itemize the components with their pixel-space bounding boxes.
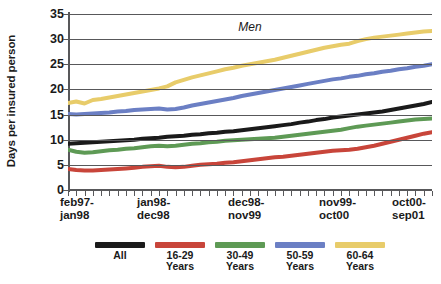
legend-label: 50-59Years: [270, 250, 330, 272]
legend-label: 60-64Years: [330, 250, 390, 272]
y-axis-tick: [63, 39, 69, 40]
x-axis-tick-label: feb97-jan98: [60, 196, 94, 221]
legend-label: All: [90, 250, 150, 261]
x-axis-tick-label: jan98-dec98: [137, 196, 170, 221]
x-tick-label-line2: dec98: [137, 209, 170, 222]
gridline: [68, 140, 432, 141]
y-axis-tick-label: 30: [40, 33, 64, 46]
gridline: [68, 89, 432, 90]
gridline: [68, 14, 432, 15]
x-tick-label-line2: jan98: [60, 209, 94, 222]
y-axis-tick-label: 5: [40, 159, 64, 172]
legend-item[interactable]: 60-64Years: [330, 242, 390, 272]
x-tick-label-line2: sep01: [392, 209, 426, 222]
x-tick-label-line1: feb97-: [60, 196, 94, 209]
legend-label-line2: Years: [150, 261, 210, 272]
series-lines: [68, 14, 432, 190]
y-axis-tick-label: 35: [40, 8, 64, 21]
legend-color-swatch: [95, 242, 145, 248]
legend-item[interactable]: 30-49Years: [210, 242, 270, 272]
legend-item[interactable]: All: [90, 242, 150, 261]
legend-label-line1: All: [90, 250, 150, 261]
legend-color-swatch: [335, 242, 385, 248]
y-axis-tick-label: 0: [40, 184, 64, 197]
legend-label: 16-29Years: [150, 250, 210, 272]
x-axis-tick-label: dec98-nov99: [228, 196, 264, 221]
x-tick-label-line2: oct00: [319, 209, 356, 222]
y-axis-tick-label: 20: [40, 83, 64, 96]
x-axis-tick-labels: feb97-jan98jan98-dec98dec98-nov99nov99-o…: [0, 196, 441, 230]
legend-color-swatch: [215, 242, 265, 248]
y-axis-tick: [63, 115, 69, 116]
plot-area: Men: [68, 14, 432, 190]
x-tick-label-line1: oct00-: [392, 196, 426, 209]
x-axis-tick-label: nov99-oct00: [319, 196, 356, 221]
x-tick-label-line1: dec98-: [228, 196, 264, 209]
y-axis-title: Days per insured person: [5, 16, 17, 186]
x-tick-label-line1: nov99-: [319, 196, 356, 209]
y-axis-tick: [63, 190, 69, 191]
legend-label-line2: Years: [330, 261, 390, 272]
y-axis-tick-label: 25: [40, 58, 64, 71]
y-axis-tick-label: 15: [40, 109, 64, 122]
y-axis-tick: [63, 14, 69, 15]
gridline: [68, 115, 432, 116]
legend-color-swatch: [155, 242, 205, 248]
series-line: [68, 119, 432, 153]
y-axis-tick: [63, 140, 69, 141]
gridline: [68, 64, 432, 65]
chart-figure: Days per insured person 35302520151050 M…: [0, 0, 441, 284]
panel-label: Men: [68, 20, 432, 34]
gridline: [68, 39, 432, 40]
x-tick-label-line1: jan98-: [137, 196, 170, 209]
x-tick-label-line2: nov99: [228, 209, 264, 222]
y-axis-tick-label: 10: [40, 134, 64, 147]
gridline: [68, 165, 432, 166]
y-axis-tick: [63, 89, 69, 90]
x-axis-tick-label: oct00-sep01: [392, 196, 426, 221]
y-axis-tick: [63, 64, 69, 65]
chart-legend: All16-29Years30-49Years50-59Years60-64Ye…: [0, 242, 441, 284]
legend-item[interactable]: 50-59Years: [270, 242, 330, 272]
legend-label: 30-49Years: [210, 250, 270, 272]
y-axis-tick: [63, 165, 69, 166]
legend-item[interactable]: 16-29Years: [150, 242, 210, 272]
legend-label-line2: Years: [270, 261, 330, 272]
legend-color-swatch: [275, 242, 325, 248]
legend-label-line2: Years: [210, 261, 270, 272]
